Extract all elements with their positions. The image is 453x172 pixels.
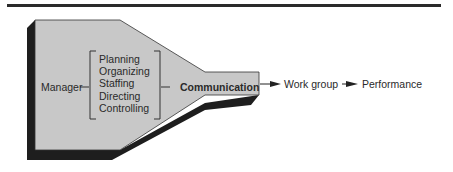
arrow-icon (270, 81, 281, 87)
function-item: Planning (99, 53, 150, 65)
function-item: Organizing (99, 65, 150, 77)
function-item: Staffing (99, 77, 150, 89)
performance-label: Performance (362, 78, 422, 90)
communication-label: Communication (180, 81, 259, 93)
function-item: Directing (99, 90, 150, 102)
management-functions: Planning Organizing Staffing Directing C… (99, 53, 150, 114)
manager-label: Manager (41, 81, 82, 93)
work-group-label: Work group (284, 78, 338, 90)
arrow-icon (346, 81, 358, 87)
function-item: Controlling (99, 102, 150, 114)
